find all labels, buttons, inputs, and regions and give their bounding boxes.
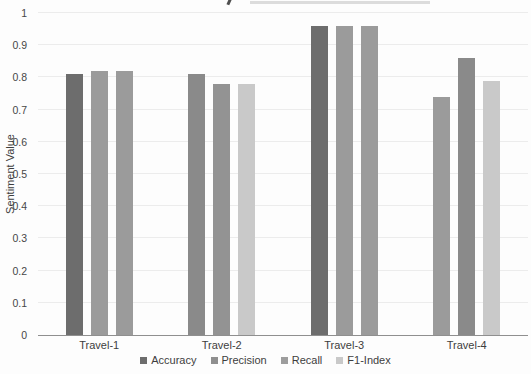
y-tick-label: 0.7	[0, 104, 32, 116]
bar	[361, 26, 378, 335]
y-tick-label: 0	[0, 329, 32, 341]
category-label: Travel-4	[406, 339, 529, 351]
sentiment-bar-chart: Sentiment Value 00.10.20.30.40.50.60.70.…	[0, 0, 531, 374]
bar	[213, 84, 230, 335]
bar	[433, 97, 450, 335]
y-tick-label: 1	[0, 7, 32, 19]
y-tick-label: 0.5	[0, 168, 32, 180]
legend-label: F1-Index	[347, 354, 390, 366]
category-label: Travel-1	[38, 339, 161, 351]
bar	[311, 26, 328, 335]
bar-group-travel-1	[38, 13, 161, 335]
y-tick-label: 0.9	[0, 39, 32, 51]
legend-marker-icon	[281, 357, 288, 364]
category-label: Travel-2	[161, 339, 284, 351]
bar	[483, 81, 500, 335]
category-label: Travel-3	[283, 339, 406, 351]
y-tick-label: 0.4	[0, 200, 32, 212]
legend-label: Accuracy	[151, 354, 196, 366]
chart-legend: AccuracyPrecisionRecallF1-Index	[0, 354, 531, 366]
y-tick-label: 0.1	[0, 297, 32, 309]
legend-item-accuracy: Accuracy	[140, 354, 196, 366]
legend-marker-icon	[336, 357, 343, 364]
legend-item-precision: Precision	[211, 354, 267, 366]
plot-area	[38, 13, 528, 335]
cropped-title-highlight	[250, 1, 430, 4]
y-tick-label: 0.3	[0, 232, 32, 244]
y-tick-label: 0.6	[0, 136, 32, 148]
y-tick-label: 0.2	[0, 265, 32, 277]
x-axis-line	[38, 335, 528, 336]
bar	[336, 26, 353, 335]
y-tick-label: 0.8	[0, 71, 32, 83]
bar	[188, 74, 205, 335]
bar-group-travel-4	[406, 13, 529, 335]
bar	[238, 84, 255, 335]
bar	[458, 58, 475, 335]
legend-item-f1-index: F1-Index	[336, 354, 390, 366]
bar	[116, 71, 133, 335]
legend-label: Recall	[292, 354, 323, 366]
bar-group-travel-2	[161, 13, 284, 335]
legend-marker-icon	[211, 357, 218, 364]
bar-groups	[38, 13, 528, 335]
bar	[66, 74, 83, 335]
y-axis-tick-labels: 00.10.20.30.40.50.60.70.80.91	[0, 13, 32, 335]
legend-marker-icon	[140, 357, 147, 364]
bar-group-travel-3	[283, 13, 406, 335]
cropped-title-fragment	[226, 0, 232, 5]
legend-item-recall: Recall	[281, 354, 323, 366]
legend-label: Precision	[222, 354, 267, 366]
x-axis-category-labels: Travel-1Travel-2Travel-3Travel-4	[38, 339, 528, 351]
bar	[91, 71, 108, 335]
